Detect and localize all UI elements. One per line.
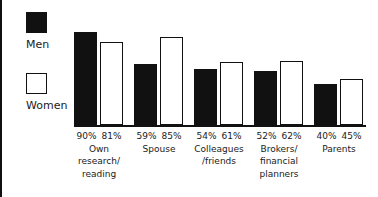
plot-area [74, 12, 366, 127]
bar-women-1 [100, 42, 123, 125]
x-tick-label-2: 59%85% Spouse [128, 131, 190, 155]
x-axis-labels: 90%81% Own research/ reading 59%85% Spou… [74, 131, 366, 195]
filled-square-icon [26, 12, 47, 33]
x-tick-label-1: 90%81% Own research/ reading [68, 131, 130, 180]
bar-group-5 [314, 12, 364, 125]
category-label-4-line1: Brokers/ [248, 144, 310, 156]
data-label-women-3: 61% [222, 131, 242, 141]
data-label-women-4: 62% [282, 131, 302, 141]
category-label-3-line2: /friends [188, 156, 250, 168]
bar-group-1 [74, 12, 124, 125]
data-labels-4: 52%62% [248, 131, 310, 143]
data-labels-5: 40%45% [308, 131, 370, 143]
x-tick-label-4: 52%62% Brokers/ financial planners [248, 131, 310, 180]
data-label-men-4: 52% [256, 131, 276, 141]
hollow-square-icon [26, 73, 47, 94]
bar-men-2 [134, 64, 157, 125]
bar-women-3 [220, 62, 243, 125]
category-label-1-line3: reading [68, 169, 130, 181]
data-label-men-3: 54% [196, 131, 216, 141]
data-label-men-2: 59% [136, 131, 156, 141]
category-label-2-line1: Spouse [128, 144, 190, 156]
x-axis-line [74, 125, 366, 127]
bar-men-4 [254, 71, 277, 125]
data-labels-2: 59%85% [128, 131, 190, 143]
data-label-men-1: 90% [76, 131, 96, 141]
bar-men-1 [74, 32, 97, 125]
data-label-men-5: 40% [316, 131, 336, 141]
category-label-3-line1: Colleagues [188, 144, 250, 156]
bar-group-4 [254, 12, 304, 125]
bar-group-3 [194, 12, 244, 125]
bar-women-2 [160, 37, 183, 125]
data-label-women-5: 45% [342, 131, 362, 141]
bar-men-5 [314, 84, 337, 125]
data-labels-1: 90%81% [68, 131, 130, 143]
data-labels-3: 54%61% [188, 131, 250, 143]
category-label-4-line2: financial [248, 156, 310, 168]
category-label-5-line1: Parents [308, 144, 370, 156]
x-tick-label-5: 40%45% Parents [308, 131, 370, 155]
category-label-4-line3: planners [248, 169, 310, 181]
category-label-1-line1: Own [68, 144, 130, 156]
bar-men-3 [194, 69, 217, 125]
bar-women-5 [340, 79, 363, 125]
bar-chart-figure: Men Women 90%81 [0, 0, 378, 197]
x-tick-label-3: 54%61% Colleagues /friends [188, 131, 250, 168]
bar-women-4 [280, 61, 303, 125]
category-label-1-line2: research/ [68, 156, 130, 168]
data-label-women-1: 81% [102, 131, 122, 141]
data-label-women-2: 85% [162, 131, 182, 141]
bar-group-2 [134, 12, 184, 125]
